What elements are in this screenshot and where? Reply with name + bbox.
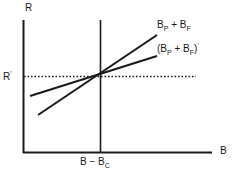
curve2-operator: + bbox=[174, 43, 180, 54]
curve2-base2: B bbox=[183, 43, 190, 54]
x-tick-label-b-minus-bc: B − BC bbox=[80, 157, 110, 169]
curve-label-bp-plus-bf: BP + BF bbox=[157, 20, 191, 32]
curve1-base1: B bbox=[157, 19, 164, 30]
curve-label-bp-plus-bf-prime: (BP + BF)' bbox=[157, 42, 199, 56]
economics-line-chart: R R' B B − BC BP + BF (BP + BF)' bbox=[0, 0, 243, 181]
y-axis-label: R bbox=[25, 3, 32, 13]
y-tick-r-prime-mark: ' bbox=[10, 70, 11, 77]
x-tick-subscript: C bbox=[105, 162, 110, 169]
x-tick-minus: − bbox=[89, 156, 95, 167]
x-tick-base: B bbox=[98, 156, 105, 167]
curve2-prime-mark: ' bbox=[197, 42, 198, 49]
curve1-sub2: F bbox=[186, 25, 190, 32]
curve2-base1: B bbox=[160, 43, 167, 54]
curve2-sub1: P bbox=[167, 49, 172, 56]
curve1-sub1: P bbox=[164, 25, 169, 32]
curve1-operator: + bbox=[171, 19, 177, 30]
x-tick-lead: B bbox=[80, 156, 87, 167]
x-axis-label: B bbox=[220, 146, 227, 156]
y-tick-label-r-prime: R' bbox=[3, 70, 12, 82]
chart-canvas bbox=[0, 0, 243, 181]
